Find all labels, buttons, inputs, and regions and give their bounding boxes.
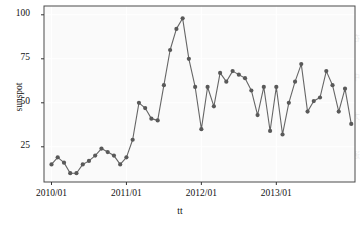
plot-canvas bbox=[0, 0, 360, 234]
x-tick-label: 2013/01 bbox=[244, 188, 308, 198]
x-axis-title: tt bbox=[0, 206, 360, 216]
x-tick-label: 2011/01 bbox=[94, 188, 158, 198]
x-tick-label: 2010/01 bbox=[19, 188, 83, 198]
sunspot-line-chart: 在全球范围内发生的重大自然灾害事件 中国科学院地球环境研究所的研究人员 太阳黑子… bbox=[0, 0, 360, 234]
y-tick-label: 25 bbox=[2, 140, 30, 150]
y-axis-title: sunspot bbox=[14, 62, 24, 132]
y-tick-label: 75 bbox=[2, 52, 30, 62]
y-tick-label: 100 bbox=[2, 8, 30, 18]
x-tick-label: 2012/01 bbox=[169, 188, 233, 198]
